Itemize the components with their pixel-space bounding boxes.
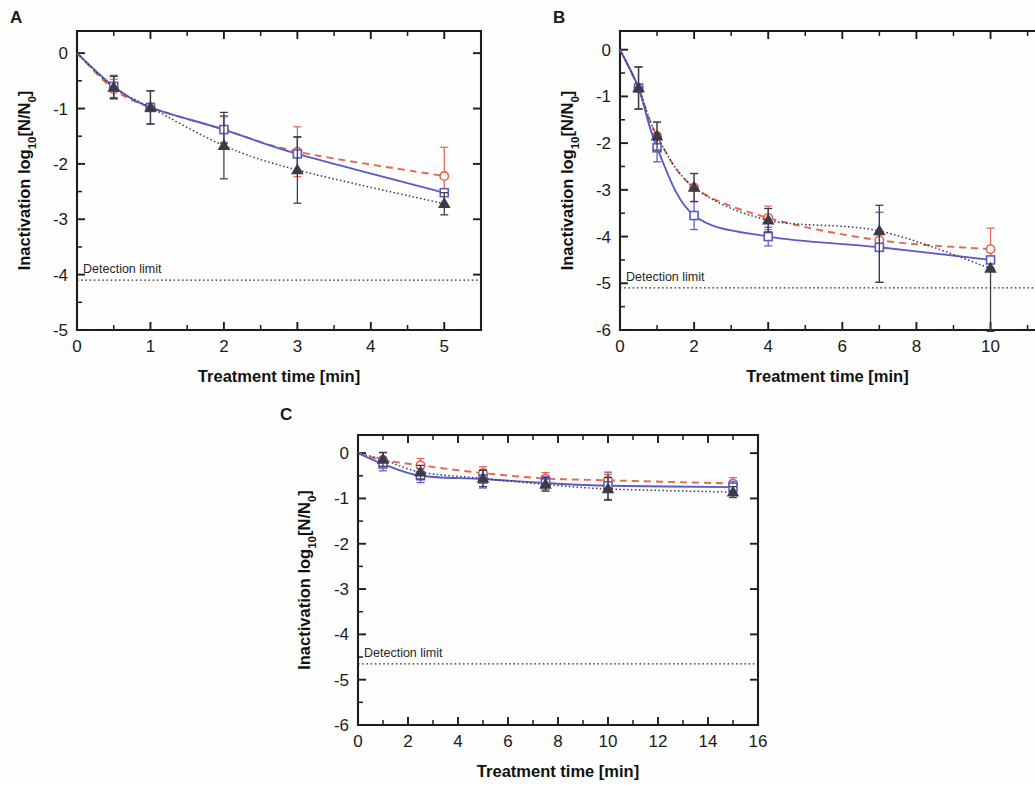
y-tick-label: 0 xyxy=(340,444,349,463)
series-black-filled-triangle xyxy=(77,53,449,215)
y-axis-title: Inactivation log10[N/N0] xyxy=(15,91,38,271)
series-path xyxy=(620,50,991,269)
panel-a-chart: 0-1-2-3-4-5012345Detection limitTreatmen… xyxy=(0,0,520,390)
detection-limit-label: Detection limit xyxy=(83,262,162,276)
y-tick-label: 0 xyxy=(602,41,611,60)
y-tick-label: -3 xyxy=(334,580,349,599)
x-tick-label: 2 xyxy=(689,337,698,356)
series-blue-open-square xyxy=(77,53,448,197)
y-tick-label: -2 xyxy=(53,155,68,174)
x-tick-label: 6 xyxy=(838,337,847,356)
y-tick-label: -1 xyxy=(596,87,611,106)
panel-a: A 0-1-2-3-4-5012345Detection limitTreatm… xyxy=(0,0,520,390)
y-tick-label: -1 xyxy=(53,100,68,119)
y-tick-label: -4 xyxy=(596,228,611,247)
panel-c: C 0-1-2-3-4-5-60246810121416Detection li… xyxy=(250,395,790,785)
x-tick-label: 10 xyxy=(981,337,1000,356)
x-tick-label: 2 xyxy=(219,337,228,356)
y-tick-label: -1 xyxy=(334,489,349,508)
panel-b-chart: 0-1-2-3-4-5-60246810Detection limitTreat… xyxy=(520,0,1035,390)
x-tick-label: 4 xyxy=(763,337,772,356)
panel-b: B 0-1-2-3-4-5-60246810Detection limitTre… xyxy=(520,0,1035,390)
y-tick-label: 0 xyxy=(59,44,68,63)
x-tick-label: 0 xyxy=(615,337,624,356)
x-tick-label: 5 xyxy=(440,337,449,356)
figure-canvas: A 0-1-2-3-4-5012345Detection limitTreatm… xyxy=(0,0,1035,785)
x-axis-title: Treatment time [min] xyxy=(198,367,360,385)
x-tick-label: 10 xyxy=(599,732,618,751)
y-tick-label: -6 xyxy=(334,716,349,735)
x-tick-label: 3 xyxy=(293,337,302,356)
marker-circle xyxy=(440,172,448,180)
x-tick-label: 12 xyxy=(649,732,668,751)
panel-c-label: C xyxy=(280,405,292,425)
x-tick-label: 1 xyxy=(146,337,155,356)
y-tick-label: -2 xyxy=(596,134,611,153)
plot-frame xyxy=(620,31,1035,330)
x-tick-label: 8 xyxy=(912,337,921,356)
marker-circle xyxy=(986,245,994,253)
plot-frame xyxy=(77,31,481,330)
x-tick-label: 2 xyxy=(403,732,412,751)
y-tick-label: -5 xyxy=(334,671,349,690)
x-tick-label: 0 xyxy=(72,337,81,356)
marker-triangle xyxy=(439,199,449,208)
y-axis-title: Inactivation log10[N/N0] xyxy=(295,490,318,670)
panel-a-label: A xyxy=(10,8,22,28)
x-tick-label: 6 xyxy=(503,732,512,751)
marker-square xyxy=(764,233,772,241)
y-tick-label: -5 xyxy=(53,321,68,340)
detection-limit-label: Detection limit xyxy=(364,646,443,660)
x-tick-label: 4 xyxy=(366,337,375,356)
series-red-open-circle xyxy=(77,53,448,205)
series-path xyxy=(77,53,444,193)
y-tick-label: -6 xyxy=(596,321,611,340)
y-axis-title: Inactivation log10[N/N0] xyxy=(558,91,581,271)
y-tick-label: -4 xyxy=(53,266,68,285)
series-path xyxy=(77,53,444,204)
marker-triangle xyxy=(292,165,302,174)
series-red-open-circle xyxy=(620,50,995,271)
x-tick-label: 0 xyxy=(353,732,362,751)
detection-limit-label: Detection limit xyxy=(626,270,705,284)
x-axis-title: Treatment time [min] xyxy=(477,762,639,780)
x-axis-title: Treatment time [min] xyxy=(746,367,908,385)
x-tick-label: 8 xyxy=(553,732,562,751)
panel-c-chart: 0-1-2-3-4-5-60246810121416Detection limi… xyxy=(250,395,790,785)
x-tick-label: 4 xyxy=(453,732,462,751)
x-tick-label: 16 xyxy=(749,732,768,751)
series-path xyxy=(77,53,444,176)
marker-square xyxy=(690,212,698,220)
series-path xyxy=(620,50,991,260)
y-tick-label: -2 xyxy=(334,535,349,554)
y-tick-label: -5 xyxy=(596,274,611,293)
x-tick-label: 14 xyxy=(699,732,718,751)
series-blue-open-square xyxy=(620,50,995,283)
y-tick-label: -3 xyxy=(596,181,611,200)
series-path xyxy=(620,50,991,249)
y-tick-label: -3 xyxy=(53,210,68,229)
y-tick-label: -4 xyxy=(334,625,349,644)
panel-b-label: B xyxy=(553,8,565,28)
